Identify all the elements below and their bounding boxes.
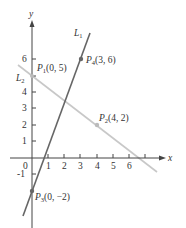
x-axis-arrow-icon [159, 156, 166, 161]
y-tick-label: 3 [22, 103, 27, 113]
y-tick-label: 6 [22, 54, 27, 64]
point-p1-label: P1(0, 5) [36, 63, 67, 74]
x-tick-label: 6 [127, 161, 132, 171]
y-tick-label: -1 [17, 169, 25, 179]
x-tick-label: 2 [62, 161, 67, 171]
x-axis-label: x [167, 153, 173, 163]
y-tick-label: 2 [22, 120, 27, 130]
line-l2-label: L2 [15, 73, 25, 84]
point-p3-label: P3(0, −2) [34, 192, 70, 203]
y-tick-label: 1 [22, 136, 27, 146]
x-tick-label: 5 [111, 161, 116, 171]
point-p2 [95, 123, 99, 127]
coordinate-plane: y x 0 1 2 3 4 5 6 -1 1 2 3 4 6 L1 L2 P1(… [0, 0, 186, 228]
y-axis-arrow-icon [30, 20, 35, 27]
x-tick-label: 4 [95, 161, 100, 171]
point-p1 [30, 74, 34, 78]
point-p4 [79, 57, 83, 61]
x-ticks [48, 154, 145, 158]
x-tick-label: 1 [46, 161, 51, 171]
line-l2 [18, 65, 157, 172]
x-tick-label: 3 [78, 161, 83, 171]
point-p3 [30, 189, 34, 193]
point-p2-label: P2(4, 2) [98, 113, 129, 124]
y-axis-label: y [28, 9, 34, 19]
point-p4-label: P4(3, 6) [85, 55, 116, 66]
y-tick-label: 4 [22, 87, 27, 97]
line-l1-label: L1 [73, 28, 83, 39]
